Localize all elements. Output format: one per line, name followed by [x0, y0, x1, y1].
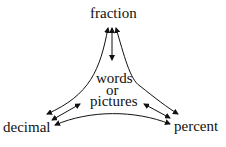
node-decimal: decimal [3, 120, 50, 135]
node-pictures: pictures [90, 94, 137, 109]
arrow-decimal-percent [55, 114, 170, 125]
node-percent: percent [174, 119, 218, 134]
node-fraction: fraction [90, 6, 137, 21]
